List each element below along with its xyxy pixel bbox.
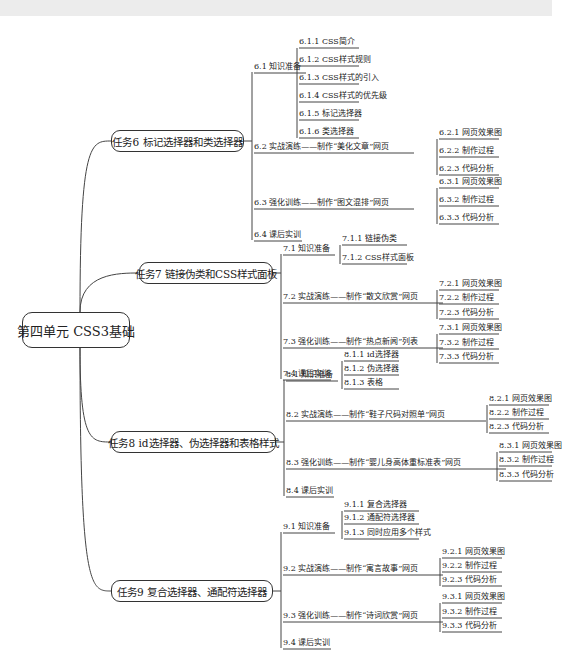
root-to-task9-curve [80,348,111,591]
subsection-label: 7.3.1 网页效果图 [439,323,502,333]
subsection-label: 6.2.1 网页效果图 [439,128,502,138]
root-title: 第四单元 CSS3基础 [17,321,135,340]
subsection-label: 7.2.3 代码分析 [439,308,494,318]
subsection-label: 8.2.2 制作过程 [489,408,544,418]
subsection-label: 9.2.2 制作过程 [442,561,497,571]
section-label: 8.4 课后实训 [286,486,333,496]
subsection-label: 9.1.2 通配符选择器 [344,513,415,523]
subsection-label: 6.3.1 网页效果图 [439,177,502,187]
section-label: 6.3 强化训练——制作“图文混排”网页 [254,198,389,208]
subsection-label: 8.1.1 id选择器 [344,350,399,360]
subsection-label: 8.3.2 制作过程 [499,455,554,465]
section-label: 9.4 课后实训 [283,638,330,648]
subsection-label: 7.1.2 CSS样式面板 [342,253,414,263]
subsection-label: 7.1.1 链接伪类 [342,234,397,244]
subsection-label: 8.2.1 网页效果图 [489,394,552,404]
task-node-7: 任务7 链接伪类和CSS样式面板 [139,262,273,284]
root-node: 第四单元 CSS3基础 [22,312,130,348]
task-title: 任务9 复合选择器、通配符选择器 [117,584,267,599]
section-label: 6.2 实战演练——制作“美化文章”网页 [254,142,389,152]
section-label: 8.1 知识准备 [286,370,333,380]
subsection-label: 6.1.4 CSS样式的优先级 [299,91,387,101]
subsection-label: 8.1.2 伪选择器 [344,364,399,374]
task-title: 任务6 标记选择器和类选择器 [112,134,242,149]
subsection-label: 6.1.6 类选择器 [299,127,354,137]
subsection-label: 6.3.2 制作过程 [439,195,494,205]
subsection-label: 7.3.3 代码分析 [439,352,494,362]
subsection-label: 8.3.3 代码分析 [499,470,554,480]
subsection-label: 9.3.2 制作过程 [442,607,497,617]
subsection-label: 9.1.1 复合选择器 [344,500,407,510]
task-node-6: 任务6 标记选择器和类选择器 [111,130,244,152]
subsection-label: 6.2.2 制作过程 [439,146,494,156]
subsection-label: 6.1.1 CSS简介 [299,37,355,47]
section-label: 9.3 强化训练——制作“诗词欣赏”网页 [283,611,418,621]
root-to-task6-curve [80,141,111,312]
section-label: 7.3 强化训练——制作“热点新闻”列表 [283,337,418,347]
subsection-label: 6.1.2 CSS样式规则 [299,55,371,65]
subsection-label: 7.2.1 网页效果图 [439,279,502,289]
subsection-label: 9.3.3 代码分析 [442,621,497,631]
subsection-label: 9.1.3 同时应用多个样式 [344,528,431,538]
subsection-label: 6.2.3 代码分析 [439,164,494,174]
section-label: 9.2 实战演练——制作“寓言故事”网页 [283,564,418,574]
subsection-label: 7.3.2 制作过程 [439,338,494,348]
subsection-label: 8.2.3 代码分析 [489,422,544,432]
task-node-9: 任务9 复合选择器、通配符选择器 [111,580,273,602]
section-label: 8.3 强化训练——制作“婴儿身高体重标准表”网页 [286,458,461,468]
root-to-task8-curve [80,348,111,442]
root-to-task7-curve [80,273,139,312]
subsection-label: 6.1.5 标记选择器 [299,109,362,119]
subsection-label: 8.1.3 表格 [344,378,383,388]
task-title: 任务8 id选择器、伪选择器和表格样式 [108,435,278,450]
subsection-label: 8.3.1 网页效果图 [499,441,562,451]
subsection-label: 6.1.3 CSS样式的引入 [299,73,379,83]
subsection-label: 7.2.2 制作过程 [439,293,494,303]
subsection-label: 9.2.3 代码分析 [442,575,497,585]
subsection-label: 9.2.1 网页效果图 [442,547,505,557]
subsection-label: 6.3.3 代码分析 [439,213,494,223]
section-label: 7.1 知识准备 [283,244,330,254]
section-label: 6.1 知识准备 [254,62,301,72]
subsection-label: 9.3.1 网页效果图 [442,592,505,602]
task-node-8: 任务8 id选择器、伪选择器和表格样式 [111,431,276,453]
section-label: 6.4 课后实训 [254,230,301,240]
section-label: 9.1 知识准备 [283,522,330,532]
section-label: 7.2 实战演练——制作“散文欣赏”网页 [283,292,418,302]
section-label: 8.2 实战演练——制作“鞋子尺码对照单”网页 [286,410,445,420]
task-title: 任务7 链接伪类和CSS样式面板 [135,266,277,281]
